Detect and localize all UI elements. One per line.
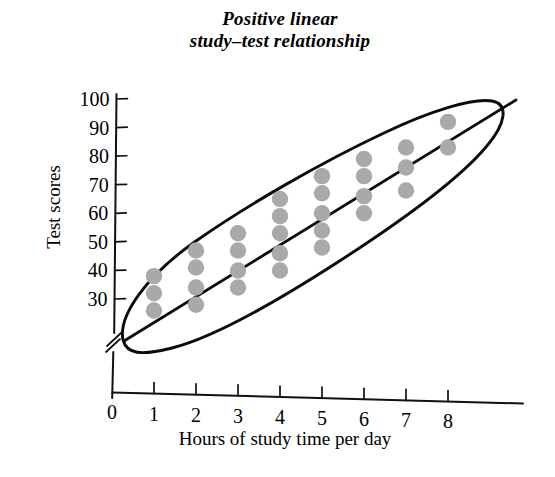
data-point bbox=[272, 245, 288, 261]
data-point bbox=[188, 279, 204, 295]
data-point bbox=[356, 151, 372, 167]
data-point bbox=[440, 139, 456, 155]
y-tick-label-100: 100 bbox=[79, 88, 109, 110]
data-point bbox=[272, 191, 288, 207]
data-point bbox=[398, 159, 414, 175]
y-tick-label-40: 40 bbox=[88, 259, 108, 281]
data-point bbox=[272, 262, 288, 278]
y-axis-lower-stub bbox=[112, 352, 113, 398]
scatter-plot-figure: Positive linear study–test relationship … bbox=[0, 0, 555, 477]
data-point bbox=[146, 268, 162, 284]
x-tick-group: 012345678 bbox=[107, 383, 453, 433]
x-tick-label-8: 8 bbox=[443, 410, 453, 432]
data-point bbox=[440, 114, 456, 130]
data-point bbox=[314, 239, 330, 255]
data-point bbox=[398, 139, 414, 155]
plot-area: 30405060708090100 012345678 bbox=[0, 0, 555, 477]
x-tick-label-0: 0 bbox=[107, 401, 117, 423]
data-point bbox=[314, 205, 330, 221]
x-tick-label-3: 3 bbox=[233, 405, 243, 427]
x-tick-label-7: 7 bbox=[401, 409, 411, 431]
data-point bbox=[230, 225, 246, 241]
x-tick-label-4: 4 bbox=[275, 406, 285, 428]
data-point bbox=[356, 205, 372, 221]
y-tick-label-30: 30 bbox=[88, 288, 108, 310]
data-point bbox=[398, 182, 414, 198]
data-point bbox=[188, 242, 204, 258]
data-point bbox=[230, 279, 246, 295]
x-axis-line bbox=[112, 393, 523, 404]
y-tick-label-90: 90 bbox=[89, 117, 109, 139]
data-point bbox=[314, 168, 330, 184]
data-point bbox=[272, 225, 288, 241]
data-point bbox=[188, 259, 204, 275]
y-tick-label-50: 50 bbox=[88, 231, 108, 253]
data-point-group bbox=[146, 114, 456, 319]
y-tick-label-60: 60 bbox=[88, 202, 108, 224]
y-tick-label-80: 80 bbox=[89, 145, 109, 167]
y-tick-label-70: 70 bbox=[89, 174, 109, 196]
x-tick-label-5: 5 bbox=[317, 407, 327, 429]
data-point bbox=[146, 302, 162, 318]
data-point bbox=[314, 222, 330, 238]
data-point bbox=[314, 185, 330, 201]
x-tick-label-6: 6 bbox=[359, 408, 369, 430]
data-point bbox=[356, 168, 372, 184]
x-tick-label-2: 2 bbox=[191, 404, 201, 426]
x-tick-label-1: 1 bbox=[149, 403, 159, 425]
data-point bbox=[356, 188, 372, 204]
data-point bbox=[146, 285, 162, 301]
y-tick-group: 30405060708090100 bbox=[79, 88, 127, 310]
data-point bbox=[230, 262, 246, 278]
data-point bbox=[272, 208, 288, 224]
envelope-ellipse bbox=[122, 101, 503, 353]
data-point bbox=[188, 297, 204, 313]
data-point bbox=[230, 242, 246, 258]
